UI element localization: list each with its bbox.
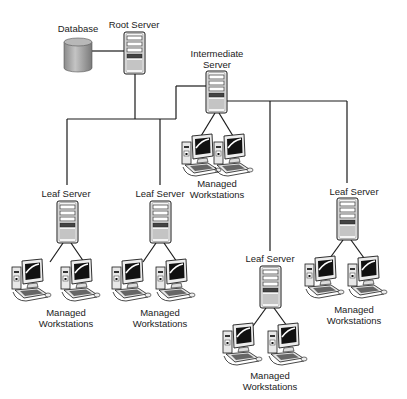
workstations-intermediate-label-line2: Workstations (190, 189, 245, 200)
intermediate-server-icon (206, 71, 227, 113)
leaf-server-4-icon (337, 198, 358, 240)
workstations-leaf1-label-line2: Workstations (39, 318, 94, 329)
workstations-leaf4-label-line2: Workstations (327, 315, 382, 326)
leaf-server-3-label: Leaf Server (245, 253, 294, 264)
leaf-server-2-icon (150, 201, 171, 243)
database-label: Database (58, 23, 99, 34)
leaf-server-3-icon (260, 266, 281, 308)
leaf-server-2-label: Leaf Server (135, 188, 184, 199)
workstation-icon (305, 256, 344, 298)
workstations-leaf2-label-line1: Managed (140, 307, 180, 318)
workstations-leaf1-label-line1: Managed (46, 307, 86, 318)
intermediate-server-label-line1: Intermediate (191, 48, 244, 59)
workstations-leaf4-label-line1: Managed (334, 304, 374, 315)
root-server-label: Root Server (109, 19, 160, 30)
leaf-server-1-label: Leaf Server (41, 188, 90, 199)
leaf-server-1-icon (57, 201, 78, 243)
workstation-icon (12, 259, 51, 301)
workstation-icon (156, 259, 195, 301)
database-icon (64, 38, 92, 72)
workstation-icon (268, 323, 307, 365)
workstation-icon (348, 256, 387, 298)
intermediate-server-label-line2: Server (203, 59, 231, 70)
workstation-icon (223, 323, 262, 365)
root-server-icon (124, 32, 145, 74)
leaf-server-4-label: Leaf Server (329, 186, 378, 197)
workstations-leaf3-label-line1: Managed (250, 370, 290, 381)
workstations-leaf2-label-line2: Workstations (133, 318, 188, 329)
workstations-leaf3-label-line2: Workstations (243, 381, 298, 392)
workstations-intermediate-label-line1: Managed (197, 178, 237, 189)
workstation-icon (112, 259, 151, 301)
workstation-icon (61, 259, 100, 301)
